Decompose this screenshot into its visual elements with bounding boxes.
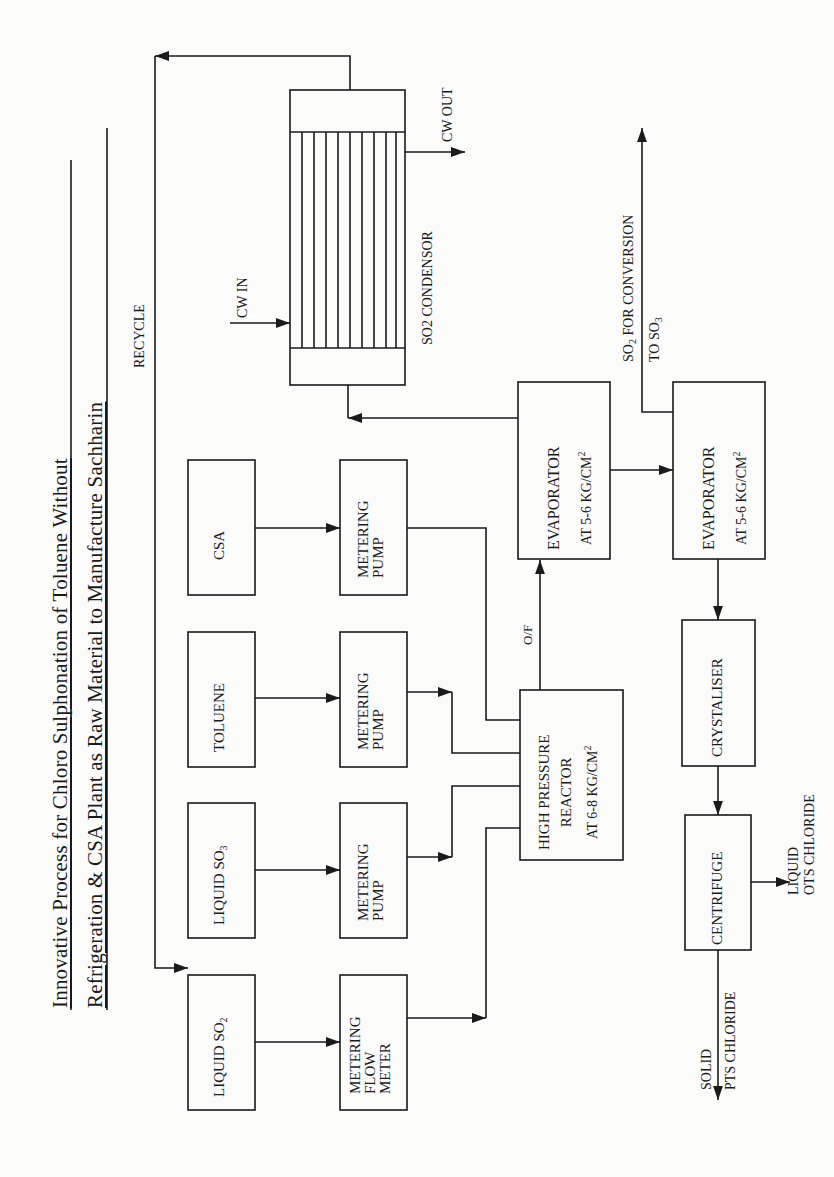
overflow-label: O/F <box>520 625 536 645</box>
csa-label: CSA <box>212 531 227 560</box>
diagram-page: Innovative Process for Chloro Sulphonati… <box>0 0 834 1177</box>
liquid-ots-label: LIQUID OTS CHLORIDE <box>786 794 818 895</box>
box-csa <box>188 460 255 595</box>
cw-out-label: CW OUT <box>440 87 456 142</box>
pump-so3-label: METERINGPUMP <box>356 844 386 922</box>
toluene-label: TOLUENE <box>212 683 227 752</box>
so2-conversion-label: SO2 FOR CONVERSION TO SO3 <box>618 215 670 362</box>
condenser-shell <box>290 90 405 385</box>
flow-meter-label: METERINGFLOWMETER <box>348 1017 393 1095</box>
recycle-down-line <box>155 56 188 968</box>
solid-pts-label: SOLID PTS CHLORIDE <box>695 992 743 1090</box>
evaporator-1-label: EVAPORATOR AT 5-6 KG/CM2 <box>540 447 601 550</box>
cw-in-label: CW IN <box>235 277 251 318</box>
recycle-label: RECYCLE <box>132 304 148 368</box>
evaporator-2-label: EVAPORATOR AT 5-6 KG/CM2 <box>695 447 756 550</box>
title-line-2: Refrigeration & CSA Plant as Raw Materia… <box>83 402 108 1008</box>
pump-toluene-label: METERINGPUMP <box>356 673 386 751</box>
line-so2-to-reactor <box>486 828 520 1018</box>
centrifuge-label: CENTRIFUGE <box>710 852 725 945</box>
reactor-label: HIGH PRESSURE REACTOR AT 6-8 KG/CM2 <box>533 735 604 850</box>
crystaliser-label: CRYSTALISER <box>710 658 725 757</box>
recycle-top-line <box>155 56 350 90</box>
title-line-1: Innovative Process for Chloro Sulphonati… <box>48 458 73 1008</box>
liquid-so3-label: LIQUID SO3 <box>212 845 231 925</box>
condenser-label: SO2 CONDENSOR <box>420 231 436 345</box>
liquid-so2-label: LIQUID SO2 <box>212 1017 231 1097</box>
condenser-tubes <box>302 132 396 348</box>
pump-csa-label: METERINGPUMP <box>356 501 386 579</box>
